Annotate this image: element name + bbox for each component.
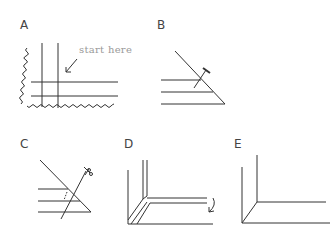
curved-arrow-icon bbox=[209, 198, 214, 212]
wavy-bottom-edge bbox=[27, 104, 114, 108]
panel-e-drawing bbox=[242, 155, 330, 223]
scissors-icon bbox=[84, 167, 93, 176]
panel-b-drawing bbox=[161, 51, 225, 104]
arrow-icon bbox=[66, 59, 77, 72]
diagram-drawing bbox=[0, 0, 332, 243]
wavy-left-edge bbox=[20, 48, 29, 104]
panel-d-drawing bbox=[128, 160, 214, 224]
panel-c-drawing bbox=[38, 160, 93, 219]
panel-a-drawing bbox=[20, 43, 119, 108]
